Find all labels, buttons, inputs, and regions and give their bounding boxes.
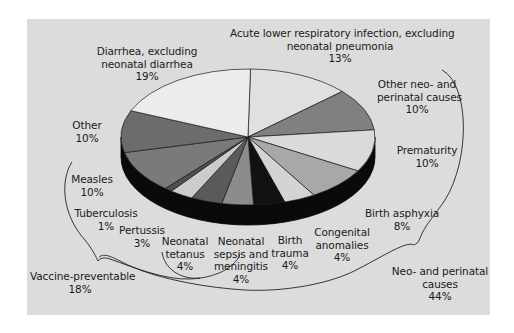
label-sepsis: Neonatal sepsis and meningitis 4%	[208, 235, 274, 285]
pie-slices	[121, 69, 375, 205]
label-prematurity: Prematurity 10%	[392, 144, 462, 169]
label-other: Other 10%	[67, 119, 107, 144]
label-tuberculosis: Tuberculosis 1%	[73, 207, 139, 232]
label-ari: Acute lower respiratory infection, exclu…	[230, 27, 450, 65]
label-other-neo: Other neo- and perinatal causes 10%	[377, 78, 457, 116]
label-vaccine-preventable: Vaccine-preventable 18%	[30, 270, 130, 295]
label-neo-perinatal-group: Neo- and perinatal causes 44%	[390, 265, 490, 303]
label-congenital: Congenital anomalies 4%	[307, 226, 377, 264]
label-measles: Measles 10%	[67, 173, 117, 198]
label-diarrhea: Diarrhea, excluding neonatal diarrhea 19…	[92, 45, 202, 83]
